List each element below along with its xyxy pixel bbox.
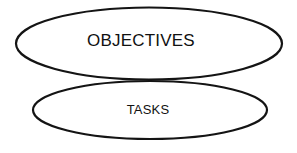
venn-diagram: OBJECTIVES TASKS — [0, 0, 297, 153]
label-objectives: OBJECTIVES — [87, 31, 195, 50]
diagram-canvas: OBJECTIVES TASKS — [0, 0, 297, 153]
label-tasks: TASKS — [127, 102, 170, 117]
